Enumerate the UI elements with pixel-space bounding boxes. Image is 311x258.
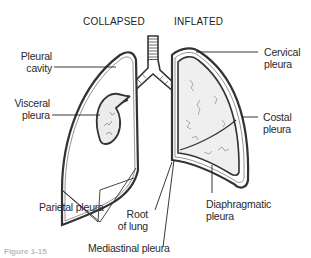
label-mediastinal-pleura: Mediastinal pleura: [88, 242, 170, 254]
header-collapsed: COLLAPSED: [83, 16, 145, 27]
label-line: pleura: [264, 58, 300, 70]
figure-caption: Figure 1-15: [4, 247, 47, 256]
label-line: pleura: [2, 109, 50, 121]
label-cervical-pleura: Cervical pleura: [264, 46, 300, 70]
collapsed-lung: [62, 52, 138, 225]
label-line: Root: [108, 208, 148, 220]
label-visceral-pleura: Visceral pleura: [2, 97, 50, 121]
label-line: Visceral: [2, 97, 50, 109]
header-inflated: INFLATED: [174, 16, 223, 27]
label-line: of lung: [108, 220, 148, 232]
label-line: Pleural: [4, 50, 52, 62]
inflated-lung: [172, 48, 248, 187]
label-line: pleura: [206, 210, 271, 222]
label-diaphragmatic-pleura: Diaphragmatic pleura: [206, 198, 271, 222]
label-line: Cervical: [264, 46, 300, 58]
label-line: cavity: [4, 62, 52, 74]
label-line: Costal: [263, 111, 292, 123]
label-costal-pleura: Costal pleura: [263, 111, 292, 135]
label-root-of-lung: Root of lung: [108, 208, 148, 232]
label-parietal-pleura: Parietal pleura: [39, 201, 104, 213]
label-line: pleura: [263, 123, 292, 135]
label-pleural-cavity: Pleural cavity: [4, 50, 52, 74]
label-line: Diaphragmatic: [206, 198, 271, 210]
